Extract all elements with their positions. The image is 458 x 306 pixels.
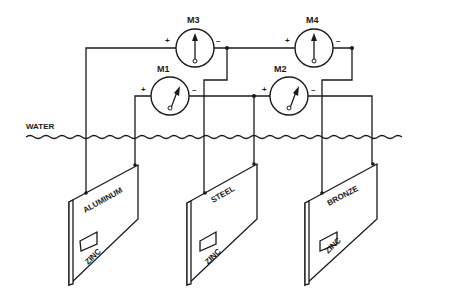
svg-text:+: + (285, 36, 290, 45)
svg-text:M3: M3 (187, 15, 200, 25)
svg-text:–: – (311, 85, 316, 94)
galvanic-test-diagram: WATER M3 + – M4 (0, 0, 458, 306)
plate-steel: STEEL ZINC (187, 162, 257, 285)
plate-aluminum: ALUMINUM ZINC (69, 163, 138, 285)
svg-text:–: – (336, 36, 341, 45)
meter-m1: M1 + – (141, 64, 197, 115)
meter-m4: M4 + – (285, 15, 341, 67)
plate-bronze: BRONZE ZINC (305, 162, 377, 285)
svg-text:M2: M2 (274, 64, 287, 74)
water-label: WATER (26, 122, 55, 131)
meter-m3: M3 + – (165, 15, 221, 67)
svg-text:+: + (141, 85, 146, 94)
svg-text:M4: M4 (306, 15, 319, 25)
svg-text:–: – (192, 85, 197, 94)
svg-text:M1: M1 (157, 64, 170, 74)
water-surface (26, 136, 402, 139)
svg-text:+: + (165, 36, 170, 45)
meter-m2: M2 + – (262, 64, 316, 115)
svg-text:–: – (216, 36, 221, 45)
svg-text:+: + (262, 85, 267, 94)
